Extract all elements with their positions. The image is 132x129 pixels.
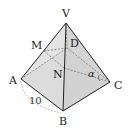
label-angle-alpha: α [88, 68, 95, 79]
label-c: C [114, 79, 122, 92]
label-n: N [53, 68, 63, 81]
pyramid-diagram: V M D A N C B 10 α [0, 0, 132, 129]
label-edge-length: 10 [29, 95, 42, 106]
label-v: V [61, 7, 71, 20]
label-b: B [59, 115, 67, 128]
label-a: A [8, 74, 18, 87]
label-m: M [31, 39, 42, 52]
label-d: D [70, 37, 79, 50]
